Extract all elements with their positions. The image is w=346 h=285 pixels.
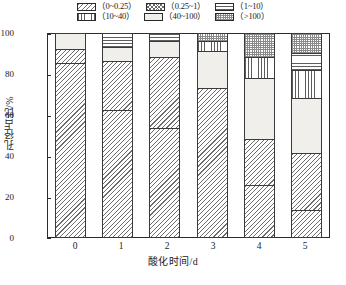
bar-0-segment-40-100 — [56, 34, 85, 50]
bar-5-segment-10-40 — [292, 71, 321, 99]
table-row[interactable] — [197, 33, 228, 238]
bar-5-segment-40-100 — [292, 99, 321, 154]
table-row[interactable] — [102, 33, 133, 238]
legend-item-025-1: （0.25~1） — [146, 2, 206, 11]
legend-item-40-100: （40~100） — [144, 12, 206, 21]
x-tick-label-0: 0 — [60, 241, 90, 251]
bar-3-segment-0-025-main — [198, 89, 227, 237]
x-tick-label-3: 3 — [198, 241, 228, 251]
table-row[interactable] — [149, 33, 180, 238]
table-row[interactable] — [55, 33, 86, 238]
legend-label-0-025: （0~0.25） — [97, 2, 137, 11]
bar-5-segment-0-025-main — [292, 211, 321, 237]
legend-item-gt100: （>100） — [215, 12, 269, 21]
x-tick-label-4: 4 — [244, 241, 274, 251]
bar-3-segment-40-100 — [198, 52, 227, 89]
legend-item-10-40: （10~40） — [77, 12, 135, 21]
legend-item-0-025: （0~0.25） — [77, 2, 137, 11]
bar-4-segment-40-100 — [245, 79, 274, 140]
legend-row-1: （0~0.25） （0.25~1） （1~10） — [77, 2, 269, 11]
legend-swatch-dotted-dense-icon — [215, 13, 234, 21]
bar-0-segment-0-025-upper — [56, 50, 85, 64]
legend-row-2: （10~40） （40~100） （>100） — [77, 12, 270, 21]
y-tick-label-20: 20 — [0, 193, 14, 202]
y-tick-label-60: 60 — [0, 111, 14, 120]
bar-5-segment-1-10 — [292, 54, 321, 70]
x-tick-label-2: 2 — [152, 241, 182, 251]
bar-0-segment-0-025-main — [56, 64, 85, 237]
bar-3-segment-10-40 — [198, 42, 227, 52]
chart-legend: （0~0.25） （0.25~1） （1~10） （10~40） （40~100… — [0, 2, 346, 21]
y-tick-label-40: 40 — [0, 152, 14, 161]
legend-label-10-40: （10~40） — [97, 12, 135, 21]
bar-4-segment-10-40 — [245, 58, 274, 78]
table-row[interactable] — [244, 33, 275, 238]
bar-2-segment-1-10 — [150, 34, 179, 42]
y-tick-label-100: 100 — [0, 29, 14, 38]
bar-5-segment-0-025-upper — [292, 154, 321, 211]
stacked-bars-group — [47, 33, 330, 238]
legend-item-1-10: （1~10） — [215, 2, 269, 11]
y-tick-label-80: 80 — [0, 70, 14, 79]
bar-2-segment-40-100 — [150, 42, 179, 58]
bar-4-segment-0-025-upper — [245, 140, 274, 187]
bar-2-segment-0-025-main — [150, 129, 179, 237]
legend-swatch-diagonal-hatch-icon — [77, 3, 96, 11]
x-tick-label-5: 5 — [290, 241, 320, 251]
x-axis-label: 酸化时间/d — [0, 256, 346, 267]
bar-1-segment-0-025-main — [103, 111, 132, 237]
y-tick-label-0: 0 — [0, 234, 14, 243]
bar-2-segment-0-025-upper — [150, 58, 179, 129]
y-axis-label: 孔径占比/% — [4, 96, 15, 150]
bar-1-segment-40-100 — [103, 48, 132, 62]
bar-4-segment-0-025-main — [245, 186, 274, 237]
legend-swatch-vertical-lines-icon — [77, 13, 96, 21]
bar-4-segment-gt100 — [245, 34, 274, 58]
bar-3-segment-gt100 — [198, 34, 227, 42]
bar-1-segment-1-10 — [103, 34, 132, 48]
table-row[interactable] — [291, 33, 322, 238]
legend-label-gt100: （>100） — [235, 12, 269, 21]
legend-label-40-100: （40~100） — [164, 12, 206, 21]
pore-size-distribution-chart: （0~0.25） （0.25~1） （1~10） （10~40） （40~100… — [0, 0, 346, 285]
bar-5-segment-gt100 — [292, 34, 321, 54]
x-tick-label-1: 1 — [106, 241, 136, 251]
legend-label-1-10: （1~10） — [235, 2, 269, 11]
legend-label-025-1: （0.25~1） — [166, 2, 206, 11]
bar-1-segment-0-025-upper — [103, 62, 132, 111]
legend-swatch-cross-hatch-icon — [146, 3, 165, 11]
legend-swatch-light-stipple-icon — [144, 13, 163, 21]
legend-swatch-horizontal-lines-icon — [215, 3, 234, 11]
